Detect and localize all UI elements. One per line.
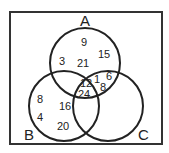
value-abc-24: 24	[78, 88, 90, 100]
set-label-c: C	[138, 126, 149, 143]
value-a-9: 9	[81, 36, 87, 48]
set-label-a: A	[80, 12, 90, 29]
set-label-b: B	[24, 126, 34, 143]
value-b-20: 20	[57, 120, 69, 132]
value-b-8: 8	[37, 93, 43, 105]
venn-diagram: A B C 9 15 3 21 1 6 8 12 24 8 4 16 20	[0, 0, 169, 153]
value-ac-8: 8	[100, 81, 106, 93]
value-b-16: 16	[59, 100, 71, 112]
value-ac-6: 6	[106, 70, 112, 82]
value-b-4: 4	[37, 111, 43, 123]
value-a-21: 21	[77, 57, 89, 69]
value-a-15: 15	[98, 48, 110, 60]
value-a-3: 3	[59, 55, 65, 67]
